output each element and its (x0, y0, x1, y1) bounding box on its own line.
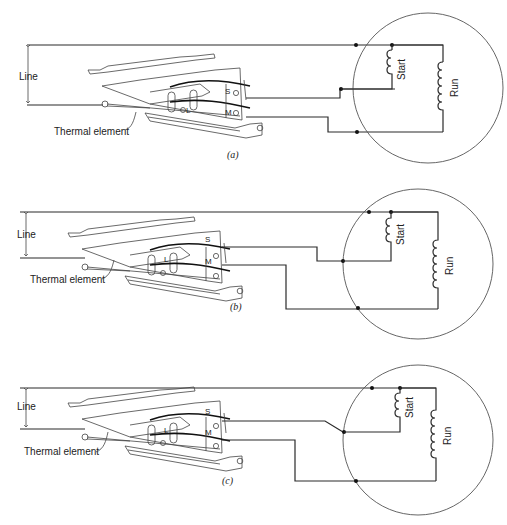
caption-a: (a) (227, 149, 239, 161)
thermal-element-label: Thermal element (24, 446, 99, 457)
caption-c: (c) (222, 475, 234, 487)
panel-c: Line S M L Thermal element (c) Start Run (17, 365, 493, 515)
terminal-l: L (164, 426, 169, 435)
terminal-s: S (225, 87, 230, 96)
line-label: Line (17, 401, 36, 412)
run-label: Run (442, 427, 453, 445)
line-label: Line (17, 229, 36, 240)
start-winding (344, 388, 400, 432)
motor-housing (353, 13, 503, 163)
start-winding (341, 50, 392, 89)
start-label: Start (395, 224, 406, 245)
panel-a: Line S M L Thermal element (a) Start Run (19, 13, 503, 163)
start-label: Start (396, 59, 407, 80)
terminal-s: S (205, 235, 210, 244)
run-label: Run (444, 257, 455, 275)
caption-b: (b) (230, 301, 242, 313)
start-label: Start (404, 397, 415, 418)
run-winding (438, 62, 443, 132)
run-label: Run (449, 79, 460, 97)
terminal-m: M (225, 108, 232, 117)
motor-overload-diagram: Line S M L Thermal element (a) Start Run (0, 0, 507, 525)
thermal-element-label: Thermal element (30, 274, 105, 285)
thermal-element-label: Thermal element (54, 126, 129, 137)
terminal-l: L (164, 255, 169, 264)
line-label: Line (19, 71, 38, 82)
start-winding (343, 212, 391, 261)
terminal-s: S (205, 407, 210, 416)
terminal-m: M (205, 428, 212, 437)
terminal-m: M (205, 257, 212, 266)
panel-b: Line S M L Thermal element (b) Start Run (17, 189, 493, 339)
terminal-l: L (186, 106, 191, 115)
